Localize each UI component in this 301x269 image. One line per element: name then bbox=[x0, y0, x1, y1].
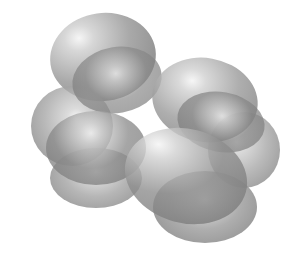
orbital-rendering bbox=[0, 0, 301, 269]
